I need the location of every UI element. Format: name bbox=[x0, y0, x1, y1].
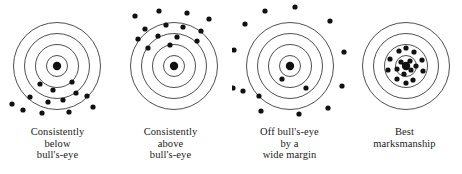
shot-dot bbox=[84, 93, 89, 98]
caption-line: below bbox=[0, 138, 115, 150]
shot-dot bbox=[403, 80, 408, 85]
shot-dot bbox=[292, 4, 297, 9]
shot-dot bbox=[396, 48, 401, 53]
target-consistently-below-rings bbox=[0, 0, 115, 126]
shot-dot bbox=[339, 83, 344, 88]
shot-dot bbox=[27, 94, 32, 99]
shot-dot bbox=[155, 33, 160, 38]
shot-dot bbox=[37, 81, 42, 86]
caption-line: Consistently bbox=[113, 126, 228, 138]
shot-dot bbox=[174, 34, 179, 39]
bullseye-center bbox=[53, 62, 61, 70]
target-off-bullseye: Off bull's-eyeby awide margin bbox=[232, 0, 347, 174]
target-best-marksmanship-rings bbox=[347, 0, 462, 126]
shot-dot bbox=[132, 13, 137, 18]
caption-line: by a bbox=[232, 138, 347, 150]
target-consistently-below: Consistentlybelowbull's-eye bbox=[0, 0, 115, 174]
caption-line: Consistently bbox=[0, 126, 115, 138]
shot-dot bbox=[258, 108, 263, 113]
shot-dot bbox=[39, 110, 44, 115]
shot-dot bbox=[296, 111, 301, 116]
target-consistently-above: Consistentlyabovebull's-eye bbox=[113, 0, 228, 174]
shot-dot bbox=[401, 71, 406, 76]
shot-dot bbox=[9, 101, 14, 106]
shot-dot bbox=[341, 49, 346, 54]
target-consistently-above-caption: Consistentlyabovebull's-eye bbox=[113, 126, 228, 161]
shot-dot bbox=[387, 56, 392, 61]
shot-dot bbox=[408, 67, 413, 72]
target-best-marksmanship: Bestmarksmanship bbox=[347, 0, 462, 174]
target-off-bullseye-caption: Off bull's-eyeby awide margin bbox=[232, 126, 347, 161]
caption-line: above bbox=[113, 138, 228, 150]
caption-line: Off bull's-eye bbox=[232, 126, 347, 138]
shot-dot bbox=[20, 107, 25, 112]
caption-line: marksmanship bbox=[347, 138, 462, 150]
shot-dot bbox=[240, 88, 245, 93]
shot-dot bbox=[419, 57, 424, 62]
target-consistently-above-rings bbox=[113, 0, 228, 126]
shot-dot bbox=[167, 42, 172, 47]
shot-dot bbox=[142, 26, 147, 31]
bullseye-center bbox=[170, 62, 178, 70]
shot-dot bbox=[411, 49, 416, 54]
shot-dot bbox=[163, 22, 168, 27]
shot-dot bbox=[66, 109, 71, 114]
shot-dot bbox=[232, 85, 236, 90]
caption-line: bull's-eye bbox=[0, 149, 115, 161]
shot-dot bbox=[135, 36, 140, 41]
shot-dot bbox=[327, 18, 332, 23]
shot-dot bbox=[402, 62, 407, 67]
shot-dot bbox=[69, 79, 74, 84]
shot-dot bbox=[385, 67, 390, 72]
shot-dot bbox=[45, 99, 50, 104]
shot-dot bbox=[206, 16, 211, 21]
shot-dot bbox=[232, 47, 237, 52]
shot-dot bbox=[156, 8, 161, 13]
shot-dot bbox=[60, 97, 65, 102]
shot-dot bbox=[407, 58, 412, 63]
shot-dot bbox=[242, 21, 247, 26]
target-consistently-below-caption: Consistentlybelowbull's-eye bbox=[0, 126, 115, 161]
shot-dot bbox=[184, 10, 189, 15]
marksmanship-target-figure: Consistentlybelowbull's-eyeConsistentlya… bbox=[0, 0, 462, 174]
shot-dot bbox=[325, 105, 330, 110]
target-best-marksmanship-caption: Bestmarksmanship bbox=[347, 126, 462, 149]
shot-dot bbox=[394, 66, 399, 71]
shot-dot bbox=[413, 63, 418, 68]
bullseye-center bbox=[286, 62, 294, 70]
shot-dot bbox=[279, 76, 284, 81]
caption-line: bull's-eye bbox=[113, 149, 228, 161]
shot-dot bbox=[50, 87, 55, 92]
shot-dot bbox=[90, 104, 95, 109]
shot-dot bbox=[194, 38, 199, 43]
caption-line: wide margin bbox=[232, 149, 347, 161]
shot-dot bbox=[403, 45, 408, 50]
target-off-bullseye-rings bbox=[232, 0, 347, 126]
caption-line: Best bbox=[347, 126, 462, 138]
shot-dot bbox=[198, 28, 203, 33]
shot-dot bbox=[420, 68, 425, 73]
shot-dot bbox=[394, 76, 399, 81]
shot-dot bbox=[145, 45, 150, 50]
shot-dot bbox=[73, 90, 78, 95]
shot-dot bbox=[256, 93, 261, 98]
shot-dot bbox=[262, 8, 267, 13]
shot-dot bbox=[303, 85, 308, 90]
shot-dot bbox=[180, 24, 185, 29]
shot-dot bbox=[410, 77, 415, 82]
